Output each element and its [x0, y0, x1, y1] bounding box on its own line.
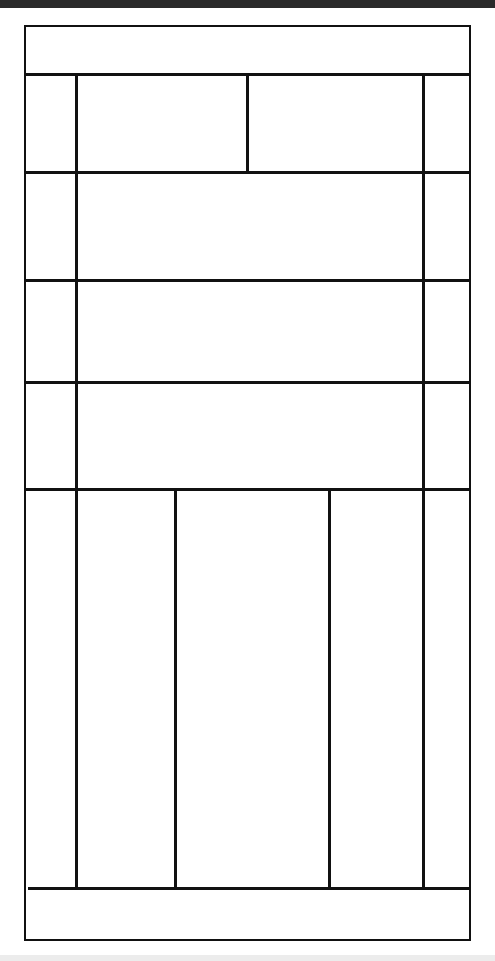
header-cell: [26, 27, 470, 73]
row-5-cell-b: [177, 491, 328, 887]
row-2-main-cell: [78, 174, 422, 279]
row-3-main-cell: [78, 282, 422, 381]
row-4-main-cell: [78, 384, 422, 488]
right-column-divider: [422, 73, 425, 889]
row-5-cell-c: [331, 491, 422, 887]
footer-cell: [28, 890, 470, 937]
top-dark-bar: [0, 0, 495, 8]
row-5-cell-a: [78, 491, 174, 887]
row-1-left-margin-cell: [26, 76, 75, 171]
row-1-cell-a: [78, 76, 246, 171]
bottom-band: [0, 955, 495, 961]
row-1-cell-b: [249, 76, 422, 171]
